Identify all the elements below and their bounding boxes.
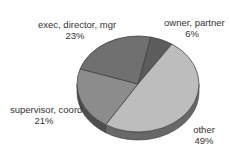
- label-owner-name: owner, partner: [164, 17, 220, 28]
- label-other: other 49%: [190, 124, 218, 146]
- label-exec-name: exec, director, mgr: [38, 19, 112, 30]
- label-other-name: other: [190, 124, 218, 135]
- label-exec: exec, director, mgr 23%: [38, 19, 112, 41]
- label-owner: owner, partner 6%: [164, 17, 220, 39]
- label-supervisor-pct: 21%: [10, 115, 78, 126]
- label-supervisor-name: supervisor, coord: [10, 104, 78, 115]
- pie-chart: exec, director, mgr 23% owner, partner 6…: [0, 0, 231, 162]
- label-exec-pct: 23%: [38, 30, 112, 41]
- label-owner-pct: 6%: [164, 28, 220, 39]
- label-supervisor: supervisor, coord 21%: [10, 104, 78, 126]
- label-other-pct: 49%: [190, 135, 218, 146]
